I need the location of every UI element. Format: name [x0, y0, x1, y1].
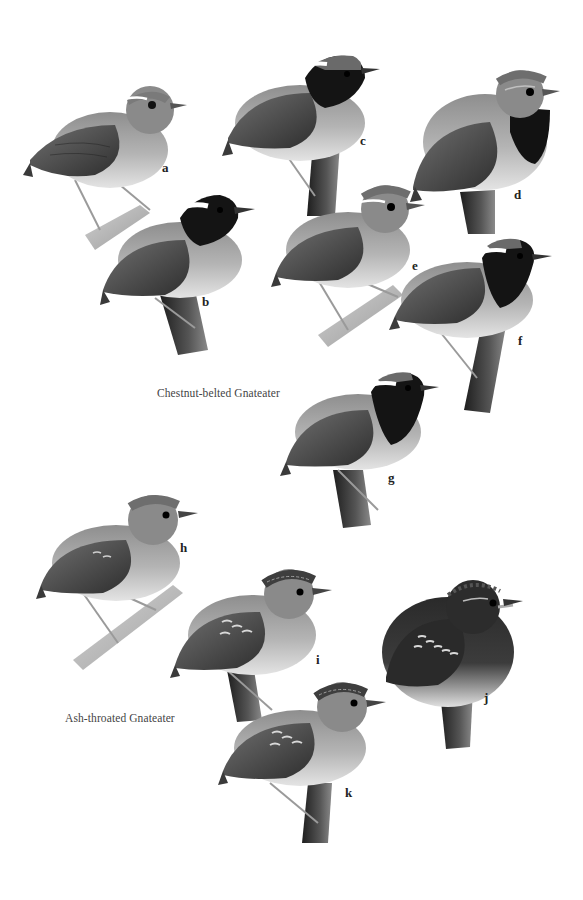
figure-label-i: i: [316, 652, 320, 668]
bird-figure-j: [378, 577, 528, 752]
species-caption-ash-throated: Ash-throated Gnateater: [65, 712, 175, 724]
bird-figure-b: [100, 190, 260, 360]
bird-figure-k: [220, 683, 390, 848]
figure-label-j: j: [484, 690, 488, 706]
figure-label-h: h: [180, 540, 187, 556]
bird-figure-d: [410, 72, 570, 242]
figure-label-f: f: [518, 333, 522, 349]
figure-label-a: a: [162, 160, 169, 176]
figure-label-d: d: [514, 187, 521, 203]
illustration-plate: a c d: [0, 0, 583, 900]
figure-label-g: g: [388, 470, 395, 486]
figure-label-b: b: [202, 294, 209, 310]
species-caption-chestnut-belted: Chestnut-belted Gnateater: [157, 387, 280, 399]
bird-figure-g: [283, 370, 443, 535]
figure-label-k: k: [345, 785, 352, 801]
figure-label-c: c: [360, 133, 366, 149]
